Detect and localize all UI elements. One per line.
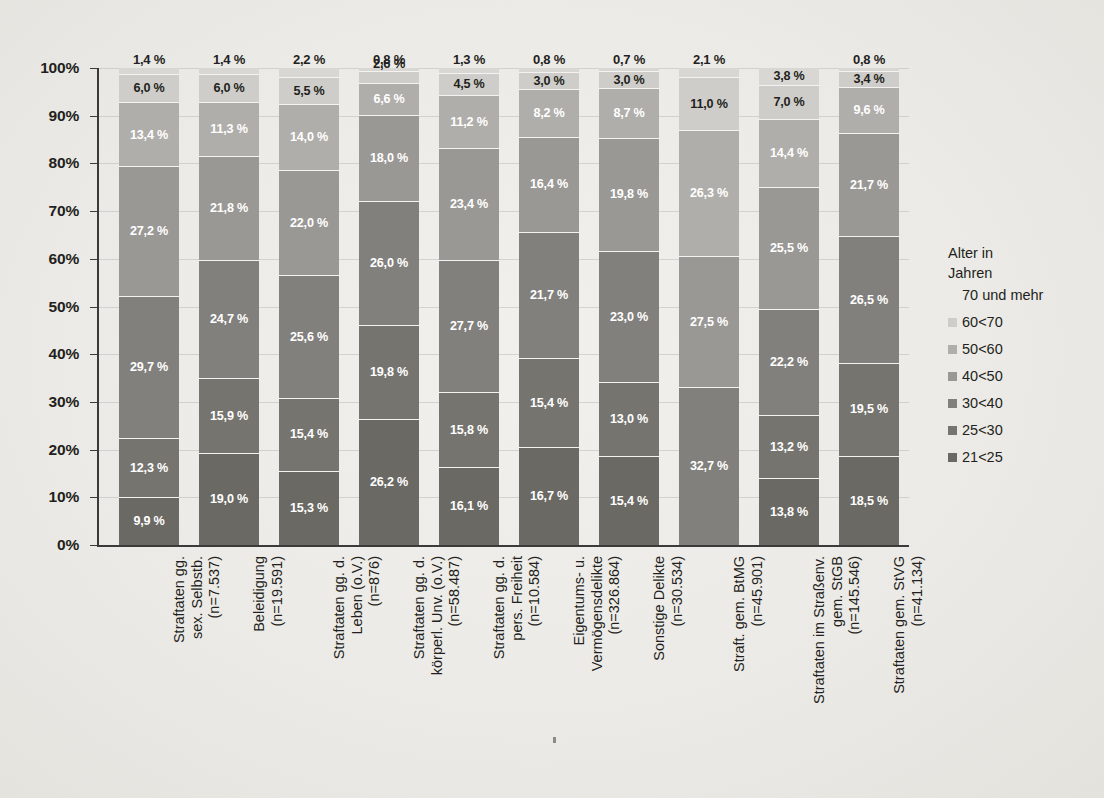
- bar-segment[interactable]: 8,2 %: [519, 90, 579, 138]
- bar-segment[interactable]: 18,5 %: [839, 457, 899, 545]
- segment-value-label: 3,0 %: [613, 74, 644, 87]
- bar-segment[interactable]: 15,4 %: [279, 399, 339, 472]
- bar-column[interactable]: 1,4 %6,0 %13,4 %27,2 %29,7 %12,3 %9,9 %: [119, 68, 179, 545]
- bar-segment[interactable]: 2,6 %: [359, 72, 419, 84]
- bar-segment[interactable]: 9,6 %: [839, 88, 899, 134]
- bar-segment[interactable]: 16,1 %: [439, 468, 499, 545]
- bar-segment[interactable]: 19,0 %: [199, 454, 259, 545]
- bar-segment[interactable]: 16,4 %: [519, 138, 579, 233]
- legend-swatch: [948, 426, 957, 435]
- bar-column[interactable]: 1,3 %4,5 %11,2 %23,4 %27,7 %15,8 %16,1 %: [439, 68, 499, 545]
- bar-segment[interactable]: 3,4 %: [839, 72, 899, 88]
- bar-column[interactable]: 3,8 %7,0 %14,4 %25,5 %22,2 %13,2 %13,8 %: [759, 68, 819, 545]
- bar-segment[interactable]: 27,2 %: [119, 167, 179, 297]
- y-tick-mark: 20%: [90, 450, 97, 451]
- bar-column[interactable]: 1,4 %6,0 %11,3 %21,8 %24,7 %15,9 %19,0 %: [199, 68, 259, 545]
- bar-segment[interactable]: 15,3 %: [279, 472, 339, 545]
- bar-segment[interactable]: 19,5 %: [839, 364, 899, 457]
- bar-segment[interactable]: 21,7 %: [839, 134, 899, 238]
- bar-segment[interactable]: 1,4 %: [119, 68, 179, 75]
- y-tick-label: 80%: [49, 154, 79, 172]
- bar-segment[interactable]: 25,5 %: [759, 188, 819, 310]
- bar-segment[interactable]: 2,2 %: [279, 68, 339, 78]
- bar-segment[interactable]: 5,5 %: [279, 78, 339, 104]
- segment-value-label: 13,4 %: [130, 129, 168, 142]
- legend-item[interactable]: 40<50: [948, 366, 1098, 386]
- bar-segment[interactable]: 3,0 %: [519, 73, 579, 90]
- bar-column[interactable]: 2,2 %5,5 %14,0 %22,0 %25,6 %15,4 %15,3 %: [279, 68, 339, 545]
- bar-segment[interactable]: 13,2 %: [759, 416, 819, 479]
- bar-segment[interactable]: 14,4 %: [759, 120, 819, 189]
- bar-segment[interactable]: 16,7 %: [519, 448, 579, 545]
- segment-value-label: 16,1 %: [450, 500, 488, 513]
- y-tick-mark: 50%: [90, 307, 97, 308]
- bar-column[interactable]: 0,8 %3,0 %8,2 %16,4 %21,7 %15,4 %16,7 %: [519, 68, 579, 545]
- bar-segment[interactable]: 6,0 %: [119, 75, 179, 104]
- category-label: Straftaten gg. sex. Selbstb. (n=7.537): [171, 556, 224, 756]
- legend-item[interactable]: 25<30: [948, 420, 1098, 440]
- bar-segment[interactable]: 25,6 %: [279, 276, 339, 398]
- segment-value-label: 11,3 %: [210, 123, 247, 136]
- bar-segment[interactable]: 2,1 %: [679, 68, 739, 78]
- segment-value-label: 3,0 %: [533, 75, 564, 88]
- bar-segment[interactable]: 15,9 %: [199, 379, 259, 455]
- bar-segment[interactable]: 12,3 %: [119, 439, 179, 498]
- bar-segment[interactable]: 15,4 %: [519, 359, 579, 448]
- bar-segment[interactable]: 14,0 %: [279, 105, 339, 172]
- bar-segment[interactable]: 11,2 %: [439, 96, 499, 149]
- bar-segment[interactable]: 19,8 %: [359, 326, 419, 420]
- bar-segment[interactable]: 18,0 %: [359, 116, 419, 202]
- bar-segment[interactable]: 23,4 %: [439, 149, 499, 261]
- bar-segment[interactable]: 9,9 %: [119, 498, 179, 545]
- legend-title: Alter in Jahren: [948, 243, 1098, 283]
- legend-item[interactable]: 21<25: [948, 447, 1098, 467]
- bar-segment[interactable]: 22,0 %: [279, 171, 339, 276]
- bar-segment[interactable]: 19,8 %: [599, 139, 659, 252]
- bar-segment[interactable]: 6,6 %: [359, 84, 419, 115]
- y-tick-mark: 40%: [90, 354, 97, 355]
- bar-segment[interactable]: 32,7 %: [679, 388, 739, 545]
- bar-column[interactable]: 2,1 %11,0 %26,3 %27,5 %32,7 %: [679, 68, 739, 545]
- bar-segment[interactable]: 15,8 %: [439, 393, 499, 468]
- segment-value-label: 15,8 %: [450, 424, 488, 437]
- bar-segment[interactable]: 13,8 %: [759, 479, 819, 545]
- bar-segment[interactable]: 13,4 %: [119, 103, 179, 167]
- bar-segment[interactable]: 4,5 %: [439, 74, 499, 95]
- bar-segment[interactable]: 11,0 %: [679, 78, 739, 131]
- bar-segment[interactable]: 22,2 %: [759, 310, 819, 416]
- bar-segment[interactable]: 26,3 %: [679, 131, 739, 257]
- bar-segment[interactable]: 27,5 %: [679, 257, 739, 389]
- bar-segment[interactable]: 26,0 %: [359, 202, 419, 326]
- y-tick-mark: 100%: [90, 68, 97, 69]
- bar-segment[interactable]: 8,7 %: [599, 89, 659, 139]
- bar-segment[interactable]: 27,7 %: [439, 261, 499, 393]
- legend-item[interactable]: 50<60: [948, 339, 1098, 359]
- bar-segment[interactable]: 26,5 %: [839, 237, 899, 363]
- segment-value-label: 25,6 %: [290, 331, 328, 344]
- bar-segment[interactable]: 11,3 %: [199, 103, 259, 157]
- bar-column[interactable]: 0,8 %2,6 %6,6 %18,0 %26,0 %19,8 %26,2 %: [359, 68, 419, 545]
- bar-segment[interactable]: 21,8 %: [199, 157, 259, 261]
- bar-segment[interactable]: 15,4 %: [599, 457, 659, 545]
- bar-segment[interactable]: 6,0 %: [199, 75, 259, 104]
- bar-segment[interactable]: 24,7 %: [199, 261, 259, 379]
- segment-value-label: 26,0 %: [370, 257, 408, 270]
- bar-segment[interactable]: 13,0 %: [599, 383, 659, 457]
- bar-segment[interactable]: 3,8 %: [759, 68, 819, 86]
- segment-value-label: 22,0 %: [290, 217, 328, 230]
- y-tick-label: 100%: [40, 59, 79, 77]
- bar-column[interactable]: 0,7 %3,0 %8,7 %19,8 %23,0 %13,0 %15,4 %: [599, 68, 659, 545]
- bar-segment[interactable]: 29,7 %: [119, 297, 179, 439]
- legend-item[interactable]: 70 und mehr: [948, 285, 1098, 305]
- bar-segment[interactable]: 23,0 %: [599, 252, 659, 383]
- legend-item[interactable]: 60<70: [948, 312, 1098, 332]
- category-label: Eigentums- u. Vermögensdelikte (n=326.86…: [571, 556, 624, 756]
- bar-segment[interactable]: 26,2 %: [359, 420, 419, 545]
- legend-item[interactable]: 30<40: [948, 393, 1098, 413]
- bar-segment[interactable]: 21,7 %: [519, 233, 579, 359]
- bar-segment[interactable]: 3,0 %: [599, 72, 659, 89]
- bar-segment[interactable]: 7,0 %: [759, 86, 819, 119]
- bar-column[interactable]: 0,8 %3,4 %9,6 %21,7 %26,5 %19,5 %18,5 %: [839, 68, 899, 545]
- segment-value-label: 5,5 %: [293, 85, 324, 98]
- bar-segment[interactable]: 1,4 %: [199, 68, 259, 75]
